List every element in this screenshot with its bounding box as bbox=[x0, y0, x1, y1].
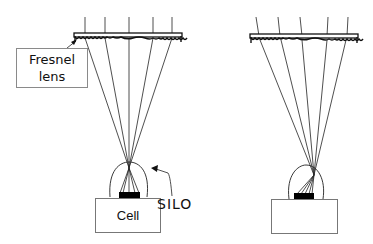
fresnel-lens-label: Fresnel lens bbox=[16, 48, 88, 88]
fresnel-lens-right bbox=[250, 34, 363, 43]
cell-box-right bbox=[271, 199, 338, 234]
fresnel-lens-label-line2: lens bbox=[39, 68, 66, 85]
silo-pointer-arrow bbox=[151, 165, 172, 196]
left-rays bbox=[85, 17, 172, 193]
fresnel-lens-label-line1: Fresnel bbox=[29, 51, 75, 68]
fresnel-lens-left bbox=[74, 33, 187, 42]
right-rays bbox=[256, 17, 348, 194]
cell-box-left: Cell bbox=[95, 198, 161, 233]
silo-label: SILO bbox=[157, 196, 192, 212]
lens-pointer-arrow bbox=[67, 39, 77, 48]
cell-label: Cell bbox=[117, 208, 139, 223]
